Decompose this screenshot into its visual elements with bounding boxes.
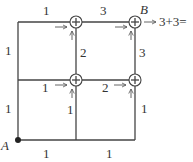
point-a-label: A (0, 138, 9, 153)
result-expression: 3+3= (159, 14, 187, 29)
label-bottom-right: 1 (106, 146, 113, 161)
point-b-label: B (140, 2, 148, 17)
circled-plus-icon (70, 74, 82, 86)
label-top-left: 1 (43, 3, 50, 18)
grid-diagram: 1 3 1 1 2 3 1 2 1 1 1 1 A B 3+3= (0, 0, 193, 162)
label-mid-horizontal-left: 1 (42, 80, 49, 95)
label-right-vertical-upper: 3 (139, 45, 146, 60)
label-mid-vertical-lower: 1 (67, 102, 74, 117)
circled-plus-icon (129, 74, 141, 86)
label-bottom-left: 1 (43, 146, 50, 161)
circled-plus-icon (129, 16, 141, 28)
label-left-lower: 1 (5, 101, 12, 116)
point-a-dot (15, 137, 21, 143)
label-mid-vertical-upper: 2 (80, 45, 87, 60)
label-mid-horizontal-right: 2 (102, 80, 109, 95)
label-top-right: 3 (100, 3, 107, 18)
label-right-vertical-lower: 1 (141, 101, 148, 116)
label-left-upper: 1 (5, 43, 12, 58)
circled-plus-icon (70, 16, 82, 28)
